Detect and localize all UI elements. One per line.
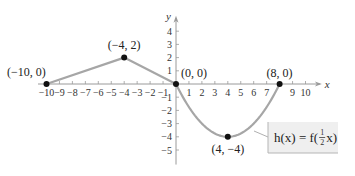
point-marker [44,81,50,87]
fraction-numerator: 1 [320,128,324,137]
point-label: (8, 0) [267,66,293,80]
x-tick-label: −8 [67,87,78,98]
x-tick-label: −6 [93,87,104,98]
x-tick-label: −9 [54,87,65,98]
x-tick-label: −10 [39,87,55,98]
point-label: (−4, 2) [108,38,141,52]
x-tick-label: −4 [119,87,130,98]
y-tick-label: 4 [167,26,172,37]
point-marker [173,81,179,87]
function-label-suffix: x) [326,130,337,145]
function-label-box: h(x) = f(12x) [254,122,338,153]
x-tick-label: −5 [106,87,117,98]
y-tick-label: 2 [167,52,172,63]
point-label: (0, 0) [181,66,207,80]
x-tick-label: 4 [225,87,230,98]
x-tick-label: −2 [145,87,156,98]
y-tick-label: −2 [161,105,172,116]
leader-line [254,131,268,137]
x-tick-label: 2 [199,87,204,98]
x-tick-label: 7 [264,87,269,98]
y-tick-label: 1 [167,65,172,76]
y-tick-label: −1 [161,92,172,103]
y-axis-label: y [165,10,171,22]
function-graph: xy −10−9−8−7−6−5−4−3−2−112345679104321−1… [0,0,355,176]
point-marker [121,55,127,61]
function-label: h(x) = f( [274,130,318,145]
curve-segment [47,58,177,84]
y-tick-label: −4 [161,131,172,142]
x-axis-label: x [324,78,330,90]
point-label: (4, −4) [211,142,244,156]
x-tick-label: 1 [186,87,191,98]
y-tick-label: −3 [161,118,172,129]
point-marker [277,81,283,87]
x-tick-label: 10 [301,87,311,98]
y-tick-label: 3 [167,39,172,50]
x-tick-label: 6 [251,87,256,98]
x-tick-label: −7 [80,87,91,98]
x-tick-label: 3 [212,87,217,98]
point-marker [225,134,231,140]
point-label: (−10, 0) [7,65,46,79]
x-tick-label: 5 [238,87,243,98]
fraction-denominator: 2 [320,138,324,147]
x-tick-label: 9 [290,87,295,98]
y-tick-label: −5 [161,145,172,156]
x-tick-label: −3 [132,87,143,98]
